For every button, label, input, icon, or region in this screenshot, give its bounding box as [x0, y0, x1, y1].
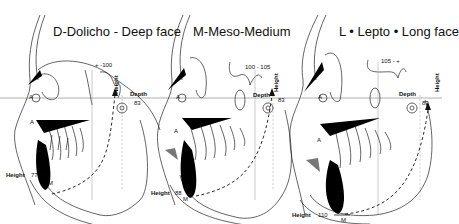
lepto-symphysis-fill — [326, 160, 344, 214]
meso-height-axis-label: Height — [273, 73, 279, 92]
lepto-height-axis-label: Height — [434, 73, 440, 92]
dolicho-height-value: 77 — [31, 172, 38, 178]
lepto-depth-value: 83 — [422, 100, 429, 106]
lepto-skull — [290, 15, 432, 224]
lepto-title: L • Lepto • Long face — [339, 24, 459, 39]
lepto-lip-fill — [306, 158, 320, 172]
lepto-range-label: 105 - + — [381, 58, 400, 64]
lepto-height-value: 110 — [318, 212, 328, 218]
dolicho-depth-value: 83 — [134, 100, 141, 106]
meso-depth-value: 83 — [278, 97, 285, 103]
meso-point-a-upper: A — [176, 94, 180, 100]
meso-lip-fill — [165, 148, 178, 160]
meso-symphysis-fill — [181, 140, 197, 198]
dolicho-height-label: Height — [6, 172, 25, 178]
dolicho-skull — [15, 15, 160, 224]
meso-palate-fill — [182, 118, 232, 130]
meso-depth-label: Depth — [253, 92, 270, 98]
meso-height-label: Height — [151, 190, 170, 196]
dolicho-point-a-upper: A — [29, 94, 33, 100]
dolicho-title: D-Dolicho - Deep face — [53, 24, 181, 39]
meso-point-a: A — [174, 128, 178, 134]
dolicho-palate-fill — [36, 120, 90, 133]
dolicho-depth-label: Depth — [130, 91, 147, 97]
dolicho-point-a: A — [30, 119, 34, 125]
lepto-depth-label: Depth — [399, 91, 416, 97]
meso-nasal-fill — [168, 68, 186, 90]
meso-growth-arrow — [196, 95, 272, 196]
dolicho-range-label: + -100 — [95, 62, 112, 68]
lepto-palate-fill — [320, 118, 380, 136]
meso-height-value: 88 — [175, 190, 182, 196]
meso-point-m: M — [183, 196, 188, 202]
lepto-height-label: Height — [292, 212, 311, 218]
lepto-nasal-fill — [304, 62, 324, 92]
dolicho-point-m: M — [48, 180, 53, 186]
lepto-point-a-upper: A — [318, 94, 322, 100]
meso-title: M-Meso-Medium — [193, 24, 291, 39]
dolicho-height-axis-label: Height — [113, 75, 119, 94]
lepto-point-a: A — [317, 137, 321, 143]
meso-range-label: 100 - 105 — [245, 64, 270, 70]
lepto-point-m: M — [341, 217, 346, 223]
